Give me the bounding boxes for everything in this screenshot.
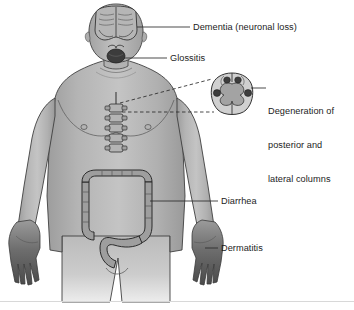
nipple-left xyxy=(81,125,87,130)
anatomical-figure: Dementia (neuronal loss) Glossitis Degen… xyxy=(0,0,354,310)
nipple-right xyxy=(145,125,151,130)
label-diarrhea: Diarrhea xyxy=(221,196,257,207)
lesion-lateral-left xyxy=(213,90,220,97)
hand-right xyxy=(192,220,223,285)
brain-cutaway xyxy=(95,6,137,40)
lesion-posterior-right xyxy=(235,77,242,83)
label-degeneration-line-1: Degeneration of xyxy=(268,106,334,117)
bottom-divider xyxy=(0,301,354,302)
label-degeneration-line-2: posterior and xyxy=(268,140,334,151)
hand-left xyxy=(9,220,40,285)
label-dermatitis: Dermatitis xyxy=(221,243,263,254)
label-glossitis: Glossitis xyxy=(170,53,205,64)
label-degeneration-line-3: lateral columns xyxy=(268,174,334,185)
lesion-lateral-right xyxy=(244,90,251,97)
label-degeneration: Degeneration of posterior and lateral co… xyxy=(268,84,334,207)
spinal-cord-cross-section xyxy=(211,73,253,115)
label-dementia: Dementia (neuronal loss) xyxy=(193,22,297,33)
lesion-posterior-left xyxy=(224,77,231,83)
